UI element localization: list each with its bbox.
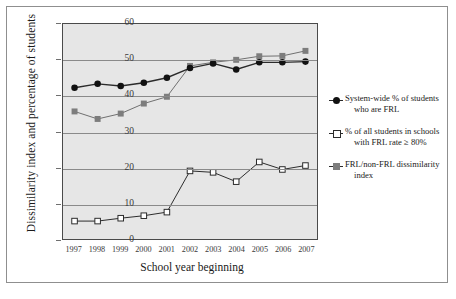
legend-label-line1: System-wide % of students [345, 93, 439, 103]
y-tick-mark [56, 204, 61, 205]
gridline [63, 133, 317, 134]
y-tick-label: 10 [110, 198, 134, 208]
gridline [63, 169, 317, 170]
legend-label: FRL/non-FRL dissimilarity index [345, 159, 447, 181]
data-point [164, 74, 171, 81]
y-tick-mark [56, 95, 61, 96]
data-point [95, 218, 101, 224]
y-tick-mark [56, 240, 61, 241]
data-point [303, 163, 309, 169]
series-layer [63, 24, 317, 239]
data-point [256, 159, 262, 165]
data-point [118, 215, 124, 221]
data-point [95, 116, 101, 122]
filled-gray-square-icon [329, 162, 343, 170]
gridline [63, 96, 317, 97]
data-point [187, 65, 194, 72]
data-point [233, 66, 240, 73]
legend-label-line1: FRL/non-FRL dissimilarity [345, 159, 439, 169]
y-tick-label: 0 [110, 234, 134, 244]
data-point [118, 111, 124, 117]
data-point [72, 218, 78, 224]
data-point [117, 83, 124, 90]
y-axis-title: Dissimilarity index and percentage of st… [25, 3, 37, 243]
data-point [72, 108, 78, 114]
legend-label: System-wide % of students who are FRL [345, 93, 447, 115]
data-point [94, 81, 101, 88]
x-axis-title: School year beginning [7, 261, 377, 273]
plot-area [62, 23, 318, 240]
data-point [141, 213, 147, 219]
open-square-icon [329, 129, 343, 137]
data-point [233, 179, 239, 185]
gridline [63, 205, 317, 206]
chart-legend: System-wide % of students who are FRL % … [329, 93, 447, 192]
data-point [141, 79, 148, 86]
y-tick-label: 50 [110, 53, 134, 63]
gridline [63, 60, 317, 61]
legend-item: System-wide % of students who are FRL [329, 93, 447, 115]
y-tick-mark [56, 132, 61, 133]
y-tick-mark [56, 23, 61, 24]
data-point [164, 209, 170, 215]
y-tick-label: 20 [110, 162, 134, 172]
legend-label-line2: with FRL rate ≥ 80% [345, 137, 447, 148]
legend-label-line2: index [345, 170, 447, 181]
chart-figure: Dissimilarity index and percentage of st… [6, 6, 448, 283]
data-point [302, 48, 308, 54]
legend-item: % of all students in schools with FRL ra… [329, 126, 447, 148]
y-tick-mark [56, 59, 61, 60]
y-tick-mark [56, 168, 61, 169]
data-point [71, 85, 78, 92]
data-point [279, 53, 285, 59]
data-point [141, 101, 147, 107]
data-point [210, 170, 216, 176]
filled-circle-icon [329, 96, 343, 104]
x-tick-label: 2007 [289, 245, 323, 254]
legend-item: FRL/non-FRL dissimilarity index [329, 159, 447, 181]
legend-label: % of all students in schools with FRL ra… [345, 126, 447, 148]
legend-label-line2: who are FRL [345, 104, 447, 115]
legend-label-line1: % of all students in schools [345, 126, 439, 136]
data-point [256, 53, 262, 59]
y-tick-label: 30 [110, 126, 134, 136]
y-tick-label: 40 [110, 89, 134, 99]
y-tick-label: 60 [110, 17, 134, 27]
